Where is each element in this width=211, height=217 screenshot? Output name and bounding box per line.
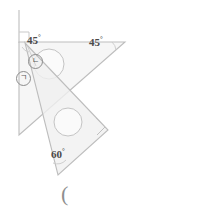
angle-label-45-left: 45° [27, 34, 41, 46]
degree-symbol-60: ° [62, 147, 65, 155]
angle-label-45-right: 45° [89, 36, 103, 48]
angle-value-45-right: 45 [89, 36, 100, 48]
circled-label-nieun: ㄴ [28, 54, 43, 69]
geometry-figure: 45° 45° 60° ㄴ ㄱ ( [0, 0, 211, 217]
angle-label-60: 60° [51, 148, 65, 160]
angle-value-45-left: 45 [27, 34, 38, 46]
circled-label-giyeok: ㄱ [16, 71, 31, 86]
open-paren-mark: ( [61, 183, 68, 205]
degree-symbol-45-right: ° [100, 35, 103, 43]
set-square-60-finger-hole [54, 108, 82, 136]
figure-canvas [0, 0, 211, 217]
angle-value-60: 60 [51, 148, 62, 160]
degree-symbol-45-left: ° [38, 33, 41, 41]
